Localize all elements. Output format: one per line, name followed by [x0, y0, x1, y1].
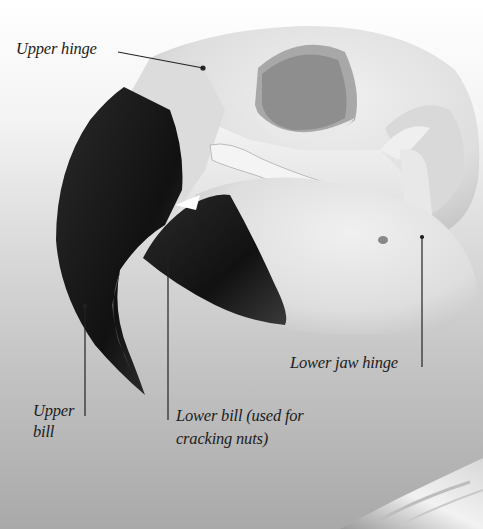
parrot-skull-diagram: Upper hinge Upper bill Lower bill (used …	[0, 0, 483, 529]
skull-illustration	[0, 0, 483, 529]
label-lower-bill-line1: Lower bill (used for	[176, 405, 304, 426]
label-upper-hinge: Upper hinge	[16, 38, 97, 59]
label-lower-jaw-hinge: Lower jaw hinge	[290, 352, 398, 373]
perch-branch	[340, 458, 483, 529]
label-upper-bill-line2: bill	[33, 421, 54, 442]
label-upper-bill-line1: Upper	[33, 400, 74, 421]
label-lower-bill-line2: cracking nuts)	[176, 428, 268, 449]
